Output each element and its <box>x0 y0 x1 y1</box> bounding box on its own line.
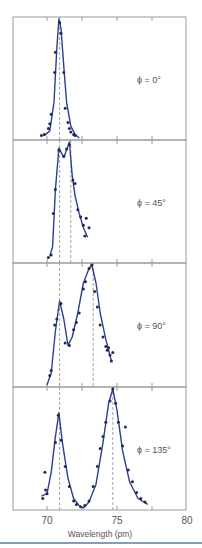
data-point <box>62 71 65 74</box>
data-point <box>82 288 85 291</box>
data-point <box>99 447 102 450</box>
data-point <box>102 435 105 438</box>
x-tick-label: 80 <box>181 515 193 526</box>
data-point <box>109 399 112 402</box>
data-point <box>104 345 107 348</box>
data-point <box>53 71 56 74</box>
data-point <box>67 121 70 124</box>
data-point <box>99 324 102 327</box>
panel-label: ϕ = 135° <box>137 445 171 455</box>
bottom-rule <box>0 542 202 544</box>
data-point <box>47 127 50 130</box>
data-point <box>88 226 91 229</box>
wavelength-spectra-chart: ϕ = 0°ϕ = 45°ϕ = 90°ϕ = 135°707580Wavele… <box>0 0 202 548</box>
data-point <box>68 143 71 146</box>
panel-label: ϕ = 45° <box>137 198 166 208</box>
data-point <box>79 216 82 219</box>
data-point <box>50 254 53 257</box>
data-point <box>48 374 51 377</box>
data-point <box>47 256 50 259</box>
data-point <box>121 445 124 448</box>
data-point <box>68 485 71 488</box>
x-tick-label: 75 <box>111 515 123 526</box>
data-point <box>76 208 79 211</box>
data-point <box>64 107 67 110</box>
data-point <box>72 499 75 502</box>
data-point <box>117 421 120 424</box>
x-axis-label: Wavelength (pm) <box>68 529 133 539</box>
data-point <box>57 149 60 152</box>
data-point <box>144 501 147 504</box>
data-point <box>68 344 71 347</box>
data-point <box>104 421 107 424</box>
data-point <box>75 321 78 324</box>
data-point <box>57 414 60 417</box>
data-point <box>65 148 68 151</box>
data-point <box>46 492 49 495</box>
data-point <box>72 328 75 331</box>
data-point <box>110 360 113 363</box>
data-point <box>44 489 47 492</box>
data-point <box>84 280 87 283</box>
data-point <box>69 131 72 134</box>
data-point <box>60 32 63 35</box>
data-point <box>54 441 57 444</box>
data-point <box>135 491 138 494</box>
data-point <box>82 224 85 227</box>
data-point <box>55 318 58 321</box>
data-point <box>111 351 114 354</box>
data-point <box>111 388 114 391</box>
data-point <box>92 485 95 488</box>
data-point <box>58 21 61 24</box>
data-point <box>139 497 142 500</box>
data-point <box>90 264 93 267</box>
data-point <box>109 354 112 357</box>
data-point <box>83 504 86 507</box>
data-point <box>43 471 46 474</box>
data-point <box>62 155 65 158</box>
data-point <box>78 312 81 315</box>
data-point <box>88 267 91 270</box>
data-point <box>50 369 53 372</box>
data-point <box>54 188 57 191</box>
data-point <box>114 402 117 405</box>
panel-label: ϕ = 90° <box>137 321 166 331</box>
data-point <box>124 426 127 429</box>
data-point <box>41 497 44 500</box>
fit-curve <box>44 19 79 138</box>
data-point <box>131 480 134 483</box>
data-point <box>53 324 56 327</box>
data-point <box>54 51 57 54</box>
data-point <box>88 499 91 502</box>
data-point <box>96 306 99 309</box>
data-point <box>127 468 130 471</box>
data-point <box>107 346 110 349</box>
panel-label: ϕ = 0° <box>137 75 161 85</box>
data-point <box>64 342 67 345</box>
data-point <box>64 465 67 468</box>
data-point <box>43 133 46 136</box>
data-point <box>52 212 55 215</box>
data-point <box>71 179 74 182</box>
data-point <box>74 182 77 185</box>
data-point <box>60 439 63 442</box>
data-point <box>50 113 53 116</box>
data-point <box>68 127 71 130</box>
fit-curve <box>41 389 147 508</box>
fit-curve <box>50 142 88 256</box>
data-point <box>85 217 88 220</box>
data-point <box>96 465 99 468</box>
data-point <box>74 134 77 137</box>
data-point <box>40 134 43 137</box>
data-point <box>83 235 86 238</box>
fit-curve <box>47 265 111 385</box>
data-point <box>75 503 78 506</box>
data-point <box>102 336 105 339</box>
data-point <box>93 290 96 293</box>
data-point <box>48 122 51 125</box>
data-point <box>79 505 82 508</box>
x-tick-label: 70 <box>41 515 53 526</box>
data-point <box>60 302 63 305</box>
